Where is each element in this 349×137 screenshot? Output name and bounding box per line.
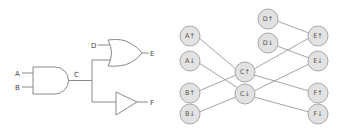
- transition-graph: A↑ A↓ B↑ B↓ C↑ C↓ D↑ D↓: [180, 9, 328, 124]
- node-d-up: D↑: [258, 9, 278, 29]
- svg-text:B↓: B↓: [185, 110, 195, 118]
- node-f-down: F↓: [308, 104, 328, 124]
- label-b: B: [15, 84, 20, 92]
- or-gate-icon: [108, 39, 142, 66]
- logic-circuit: A B C D E F: [15, 39, 154, 115]
- buffer-gate-icon: [116, 92, 137, 115]
- edge-ddown-edown: [277, 46, 309, 58]
- node-f-up: F↑: [308, 83, 328, 103]
- svg-text:A↑: A↑: [185, 32, 195, 40]
- svg-text:A↓: A↓: [185, 57, 195, 65]
- and-gate-icon: [33, 67, 69, 94]
- edge-aup-cup: [199, 38, 236, 69]
- svg-text:F↑: F↑: [313, 89, 322, 97]
- label-d: D: [91, 42, 96, 50]
- node-c-down: C↓: [235, 84, 255, 104]
- svg-text:B↑: B↑: [185, 89, 195, 97]
- edge-bdown-cdown: [199, 97, 236, 112]
- svg-text:D↑: D↑: [263, 15, 273, 23]
- label-e: E: [150, 50, 154, 58]
- svg-text:D↓: D↓: [263, 39, 273, 47]
- edge-cdown-fdown: [254, 97, 309, 112]
- label-f: F: [150, 99, 154, 107]
- node-a-down: A↓: [180, 51, 200, 71]
- node-b-down: B↓: [180, 104, 200, 124]
- diagram-canvas: A B C D E F: [0, 0, 349, 137]
- node-b-up: B↑: [180, 83, 200, 103]
- svg-text:C↑: C↑: [240, 68, 250, 76]
- label-c: C: [74, 71, 79, 79]
- svg-text:C↓: C↓: [240, 90, 250, 98]
- node-d-down: D↓: [258, 33, 278, 53]
- node-a-up: A↑: [180, 26, 200, 46]
- edge-adown-cdown: [199, 63, 238, 88]
- svg-text:F↓: F↓: [313, 110, 322, 118]
- node-e-down: E↓: [308, 51, 328, 71]
- edge-dup-eup: [277, 21, 309, 33]
- svg-text:E↑: E↑: [313, 32, 323, 40]
- node-c-up: C↑: [235, 62, 255, 82]
- label-a: A: [15, 70, 20, 78]
- node-e-up: E↑: [308, 26, 328, 46]
- svg-text:E↓: E↓: [313, 57, 323, 65]
